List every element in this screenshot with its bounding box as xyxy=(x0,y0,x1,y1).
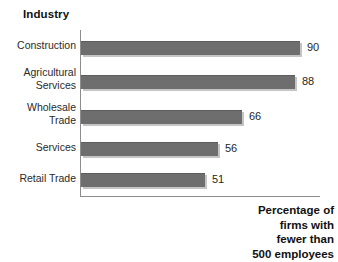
bar-value-3: 56 xyxy=(225,142,237,155)
bar-services xyxy=(81,142,218,156)
bar-retail-trade xyxy=(81,173,205,187)
category-label-text: Agricultural Services xyxy=(0,66,76,91)
category-label-text: Construction xyxy=(0,39,76,52)
category-label-2: Wholesale Trade xyxy=(0,101,76,126)
bar-value-0: 90 xyxy=(307,41,319,54)
category-label-text: Services xyxy=(0,141,76,154)
category-label-text: Retail Trade xyxy=(0,172,76,185)
bar-value-2: 66 xyxy=(249,110,261,123)
bar-chart: Industry Construction 90 Agricultural Se… xyxy=(0,0,338,262)
category-label-4: Retail Trade xyxy=(0,172,76,185)
x-axis-line xyxy=(80,196,320,197)
x-axis-caption: Percentage of firms with fewer than 500 … xyxy=(174,203,334,261)
bar-construction xyxy=(81,41,300,55)
bar-wholesale-trade xyxy=(81,110,242,124)
category-label-3: Services xyxy=(0,141,76,154)
category-label-1: Agricultural Services xyxy=(0,66,76,91)
category-label-0: Construction xyxy=(0,39,76,52)
y-axis-title: Industry xyxy=(23,8,69,20)
bar-agricultural-services xyxy=(81,75,295,89)
bar-value-1: 88 xyxy=(302,75,314,88)
category-label-text: Wholesale Trade xyxy=(0,101,76,126)
bar-value-4: 51 xyxy=(212,173,224,186)
